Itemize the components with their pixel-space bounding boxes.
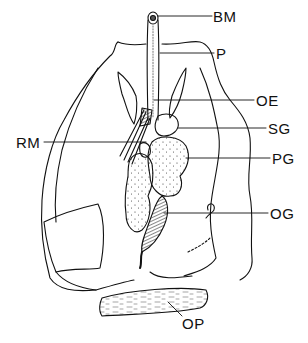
- anatomical-diagram: BM P OE RM SG PG OG OP: [0, 0, 308, 343]
- label-p: P: [216, 46, 227, 61]
- label-op: OP: [182, 316, 205, 331]
- diagram-drawing: [0, 0, 308, 343]
- label-oe: OE: [256, 93, 279, 108]
- label-bm: BM: [213, 9, 237, 24]
- operculum: [100, 288, 208, 316]
- lateral-processes: [118, 68, 186, 124]
- label-og: OG: [270, 206, 294, 221]
- proboscis: [147, 12, 159, 120]
- label-sg: SG: [268, 121, 291, 136]
- label-rm: RM: [16, 135, 40, 150]
- label-pg: PG: [272, 151, 295, 166]
